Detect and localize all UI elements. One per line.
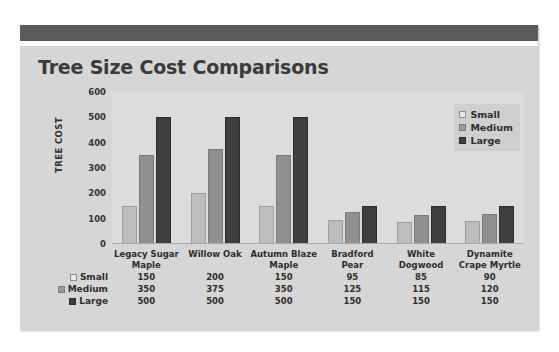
bar-small	[328, 220, 343, 244]
category-label: WhiteDogwood	[387, 248, 456, 271]
table-cell: 375	[181, 283, 250, 295]
bar-medium	[139, 155, 154, 244]
table-cell: 95	[318, 271, 387, 283]
y-axis-title: TREE COST	[54, 100, 64, 190]
table-cell: 150	[455, 295, 524, 307]
category-label: Bradford Pear	[318, 248, 387, 271]
bar-medium	[482, 214, 497, 244]
category-label-line: Maple	[250, 260, 317, 271]
table-cell: 115	[387, 283, 456, 295]
category-label-line: Maple	[113, 260, 180, 271]
category-label-line: Dynamite	[456, 249, 523, 260]
bar-large	[362, 206, 377, 244]
category-label: Autumn BlazeMaple	[249, 248, 318, 271]
legend-item-label: Small	[470, 108, 500, 121]
bar-medium	[414, 215, 429, 244]
table-row-header: Small	[32, 271, 112, 283]
small-swatch-icon	[459, 111, 466, 118]
y-tick-label: 200	[88, 188, 106, 198]
table-cell: 500	[181, 295, 250, 307]
table-cell: 350	[112, 283, 181, 295]
screenshot-root: Tree Size Cost Comparisons TREE COST 600…	[0, 0, 559, 352]
bar-group	[181, 92, 250, 244]
table-cells: 500500500150150150	[112, 295, 524, 307]
table-cell: 150	[249, 271, 318, 283]
table-cell: 200	[181, 271, 250, 283]
slide-card: Tree Size Cost Comparisons TREE COST 600…	[20, 25, 538, 330]
table-row: Medium350375350125115120	[32, 283, 526, 295]
slide-body: Tree Size Cost Comparisons TREE COST 600…	[20, 46, 538, 330]
y-tick-label: 300	[88, 163, 106, 173]
category-label: Willow Oak	[181, 248, 250, 271]
bar-group	[318, 92, 387, 244]
category-label-line: Autumn Blaze	[250, 249, 317, 260]
table-cell: 500	[112, 295, 181, 307]
table-cells: 150200150958590	[112, 271, 524, 283]
y-tick-label: 400	[88, 138, 106, 148]
category-label: DynamiteCrape Myrtle	[455, 248, 524, 271]
medium-swatch-icon	[58, 286, 65, 293]
slide-header-bar	[20, 25, 538, 41]
x-axis-line	[112, 243, 524, 244]
bar-large	[431, 206, 446, 244]
category-label-cells: Legacy SugarMapleWillow OakAutumn BlazeM…	[112, 248, 524, 271]
category-label: Legacy SugarMaple	[112, 248, 181, 271]
small-swatch-icon	[70, 274, 77, 281]
table-cell: 350	[249, 283, 318, 295]
table-row-categories: Legacy SugarMapleWillow OakAutumn BlazeM…	[32, 248, 526, 271]
page-title: Tree Size Cost Comparisons	[38, 56, 329, 78]
table-cells: 350375350125115120	[112, 283, 524, 295]
legend-item-medium: Medium	[459, 121, 513, 134]
bar-small	[397, 222, 412, 244]
table-cell: 500	[249, 295, 318, 307]
table-row: Large500500500150150150	[32, 295, 526, 307]
legend-item-label: Large	[470, 134, 500, 147]
legend-item-small: Small	[459, 108, 513, 121]
medium-swatch-icon	[459, 124, 466, 131]
table-cell: 120	[455, 283, 524, 295]
bar-group	[387, 92, 456, 244]
bar-large	[499, 206, 514, 244]
bar-group	[112, 92, 181, 244]
legend-item-large: Large	[459, 134, 513, 147]
bar-large	[156, 117, 171, 244]
table-row-header: Large	[32, 295, 112, 307]
chart-legend: SmallMediumLarge	[454, 104, 520, 151]
category-label-line: Dogwood	[388, 260, 455, 271]
bar-small	[191, 193, 206, 244]
bar-large	[293, 117, 308, 244]
table-row: Small150200150958590	[32, 271, 526, 283]
y-axis-ticks: 6005004003002001000	[72, 90, 108, 246]
category-label-line: Crape Myrtle	[456, 260, 523, 271]
table-cell: 150	[112, 271, 181, 283]
table-row-header: Medium	[32, 283, 112, 295]
bar-group	[249, 92, 318, 244]
bar-small	[465, 221, 480, 244]
category-label-line: Bradford Pear	[319, 249, 386, 271]
table-cell: 85	[387, 271, 456, 283]
y-tick-label: 500	[88, 112, 106, 122]
bar-small	[122, 206, 137, 244]
table-cell: 150	[318, 295, 387, 307]
table-row-label: Large	[79, 296, 108, 306]
table-value-rows: Small150200150958590Medium35037535012511…	[32, 271, 526, 307]
table-row-label: Medium	[68, 284, 108, 294]
table-row-label: Small	[80, 272, 108, 282]
legend-item-label: Medium	[470, 121, 513, 134]
category-label-line: Legacy Sugar	[113, 249, 180, 260]
large-swatch-icon	[69, 298, 76, 305]
table-cell: 150	[387, 295, 456, 307]
bar-medium	[276, 155, 291, 244]
table-cell: 90	[455, 271, 524, 283]
large-swatch-icon	[459, 137, 466, 144]
data-table: Legacy SugarMapleWillow OakAutumn BlazeM…	[32, 248, 526, 307]
bar-medium	[345, 212, 360, 244]
bar-medium	[208, 149, 223, 244]
bar-large	[225, 117, 240, 244]
category-label-line: Willow Oak	[182, 249, 249, 260]
y-tick-label: 600	[88, 87, 106, 97]
y-tick-label: 100	[88, 214, 106, 224]
category-label-line: White	[388, 249, 455, 260]
bar-small	[259, 206, 274, 244]
table-cell: 125	[318, 283, 387, 295]
